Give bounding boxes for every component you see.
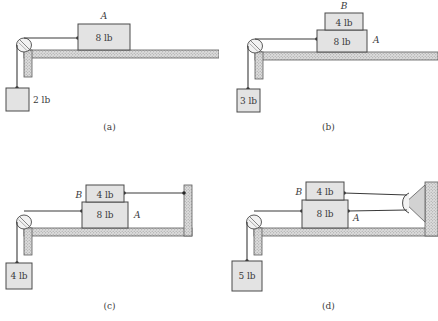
wall-left xyxy=(24,50,32,77)
cord-anchor-wall xyxy=(182,191,186,195)
ground-surface xyxy=(254,228,438,236)
panel-b: 8 lb A 4 lb B 3 lb (b) xyxy=(219,0,438,140)
pulley-right-icon xyxy=(403,185,425,222)
panel-a-caption: (a) xyxy=(0,122,219,132)
panel-b-caption: (b) xyxy=(219,122,438,132)
block-b-name-label: B xyxy=(340,1,348,11)
block-b-name-label: B xyxy=(294,187,302,197)
cord-to-pulley-top xyxy=(344,193,407,195)
panel-c-caption: (c) xyxy=(0,301,219,311)
wall-left xyxy=(255,52,263,79)
ground-surface xyxy=(255,52,438,60)
panel-d-caption: (d) xyxy=(219,301,438,311)
wall-left xyxy=(24,228,32,255)
panel-a: 8 lb A 2 lb (a) xyxy=(0,0,219,140)
block-b-weight-label: 4 lb xyxy=(316,187,333,197)
panel-c-diagram: 8 lb A 4 lb B 4 lb xyxy=(0,160,219,321)
panel-d: 8 lb A 4 lb B 5 lb (d) xyxy=(219,160,438,321)
hanging-weight-label: 5 lb xyxy=(238,271,255,281)
wall-left xyxy=(254,228,262,255)
hanging-weight-block xyxy=(6,88,29,111)
hanging-weight-label: 2 lb xyxy=(33,95,50,105)
panel-a-diagram: 8 lb A 2 lb xyxy=(0,0,219,140)
block-a-name-label: A xyxy=(133,210,141,220)
hanging-weight-label: 4 lb xyxy=(10,271,27,281)
hanging-weight-label: 3 lb xyxy=(240,96,257,106)
block-a-weight-label: 8 lb xyxy=(96,210,113,220)
block-b-name-label: B xyxy=(74,190,82,200)
ground-surface xyxy=(24,50,219,58)
panel-b-diagram: 8 lb A 4 lb B 3 lb xyxy=(219,0,438,140)
block-a-weight-label: 8 lb xyxy=(316,209,333,219)
wall-right xyxy=(425,182,438,236)
panel-c: 8 lb A 4 lb B 4 lb (c) xyxy=(0,160,219,321)
cord-to-pulley-bottom xyxy=(348,210,407,211)
block-b-weight-label: 4 lb xyxy=(335,18,352,28)
panel-d-diagram: 8 lb A 4 lb B 5 lb xyxy=(219,160,438,321)
block-a-weight-label: 8 lb xyxy=(333,37,350,47)
block-b-weight-label: 4 lb xyxy=(96,190,113,200)
block-a-name-label: A xyxy=(100,11,108,21)
block-a-name-label: A xyxy=(352,213,360,223)
figure-container: 8 lb A 2 lb (a) xyxy=(0,0,438,321)
block-a-weight-label: 8 lb xyxy=(95,33,112,43)
block-a-name-label: A xyxy=(372,35,380,45)
ground-surface xyxy=(24,228,192,236)
